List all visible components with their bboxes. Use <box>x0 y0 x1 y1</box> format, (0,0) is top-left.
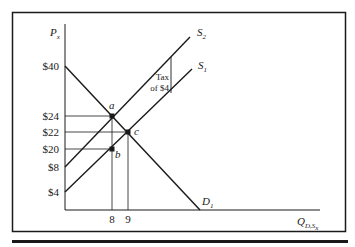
label-point-c: c <box>134 125 139 137</box>
tax-note-line1: Tax <box>156 72 170 82</box>
y-tick-40: $40 <box>43 60 60 72</box>
point-c <box>126 130 131 135</box>
x-tick-9: 9 <box>125 213 131 225</box>
figure-frame <box>13 13 346 232</box>
point-a <box>110 114 115 119</box>
label-point-a: a <box>109 99 115 111</box>
y-tick-22: $22 <box>43 126 60 138</box>
label-s1: S1 <box>198 59 207 74</box>
y-axis-label: Px <box>49 26 61 41</box>
bottom-rule <box>12 240 348 243</box>
x-axis-label: QD,Sx <box>297 215 319 232</box>
supply-curve-s2 <box>65 37 190 167</box>
tax-incidence-diagram: $40 $24 $22 $20 $8 $4 8 9 Px QD,Sx S2 S1… <box>0 0 355 247</box>
label-s2: S2 <box>197 26 207 41</box>
tax-note-line2: of $4 <box>150 83 169 93</box>
demand-curve-d1 <box>65 66 200 210</box>
y-tick-20: $20 <box>43 143 60 155</box>
point-b <box>110 147 115 152</box>
y-tick-8: $8 <box>48 161 60 173</box>
label-d1: D1 <box>201 195 213 210</box>
x-tick-8: 8 <box>109 213 115 225</box>
label-point-b: b <box>115 148 121 160</box>
y-tick-4: $4 <box>48 186 60 198</box>
y-tick-24: $24 <box>43 110 60 122</box>
